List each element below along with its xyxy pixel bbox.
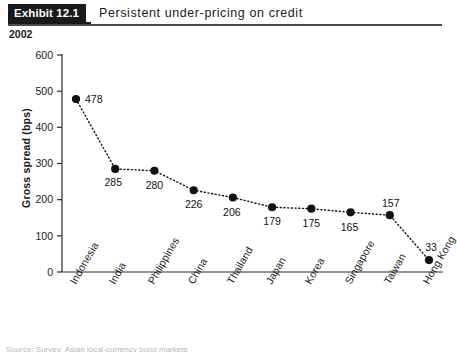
chart-plot-area: 0100200300400500600 47828528022620617917… (0, 0, 450, 300)
y-tick-label: 600 (35, 49, 53, 61)
y-tick-label: 500 (35, 85, 53, 97)
data-point-value-label: 226 (185, 198, 203, 210)
data-point-value-label: 280 (146, 179, 164, 191)
y-axis-ticks: 0100200300400500600 (35, 49, 62, 278)
data-point-marker (72, 95, 80, 103)
y-tick-label: 400 (35, 121, 53, 133)
data-point-value-label: 206 (223, 206, 241, 218)
data-point-value-label: 157 (382, 197, 400, 209)
series-line-gross-spread (76, 99, 429, 260)
data-point-marker (307, 205, 315, 213)
x-axis-category-labels: IndonesiaIndiaPhilippinesChinaThailandJa… (0, 276, 450, 348)
data-point-value-label: 179 (263, 215, 281, 227)
data-point-marker (111, 165, 119, 173)
data-point-marker (346, 208, 354, 216)
data-point-marker (229, 193, 237, 201)
y-tick-label: 100 (35, 230, 53, 242)
data-point-marker (150, 167, 158, 175)
data-point-value-label: 165 (341, 221, 359, 233)
data-point-value-label: 478 (85, 93, 103, 105)
series-point-labels: 47828528022620617917516515733 (85, 93, 437, 253)
data-point-value-label: 285 (104, 176, 122, 188)
data-point-value-label: 175 (303, 217, 321, 229)
chart-axes (62, 54, 443, 272)
data-point-marker (386, 211, 394, 219)
y-tick-label: 200 (35, 193, 53, 205)
data-point-marker (190, 186, 198, 194)
line-chart: 0100200300400500600 47828528022620617917… (0, 0, 450, 300)
data-point-marker (268, 203, 276, 211)
bottom-cropped-note: Source: Survey; Asian local-currency bon… (0, 345, 450, 352)
y-tick-label: 300 (35, 157, 53, 169)
series-markers (72, 95, 433, 264)
